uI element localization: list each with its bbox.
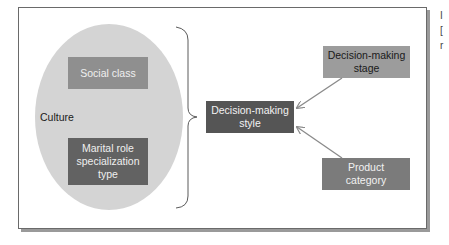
side-text-fragment: r	[440, 40, 449, 51]
side-text-fragment: [	[440, 25, 449, 36]
connectors	[0, 0, 449, 245]
arrow-product-to-style	[297, 127, 342, 158]
brace-connector	[176, 27, 197, 208]
side-text-fragment: I	[440, 10, 449, 21]
arrow-stage-to-style	[297, 78, 342, 108]
